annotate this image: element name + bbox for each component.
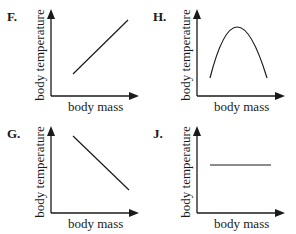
panel-f: F. body temperature body mass [0, 0, 148, 117]
graph-increasing-line [0, 0, 148, 117]
graph-decreasing-line [0, 117, 148, 234]
panel-h: H. body temperature body mass [146, 0, 294, 117]
graph-parabola [146, 0, 294, 117]
graph-constant-line [146, 117, 294, 234]
panel-j: J. body temperature body mass [146, 117, 294, 234]
panel-g: G. body temperature body mass [0, 117, 148, 234]
